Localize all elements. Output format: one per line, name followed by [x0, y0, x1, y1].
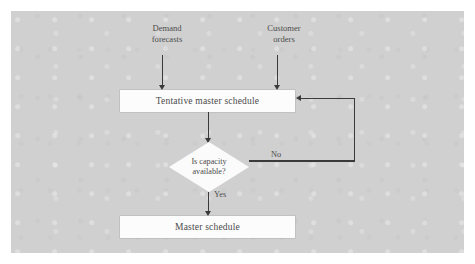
connector-orders-to-tentative: [277, 55, 278, 86]
caption-customer-orders: Customer orders: [243, 23, 325, 45]
node-master-schedule[interactable]: Master schedule: [120, 216, 295, 238]
node-decision-capacity-available[interactable]: Is capacity available?: [169, 142, 249, 192]
caption-demand-forecasts: Demand forecasts: [132, 23, 202, 45]
connector-no-vertical: [354, 98, 355, 161]
caption-demand-forecasts-line2: forecasts: [132, 34, 202, 45]
edge-label-yes: Yes: [214, 190, 226, 199]
diagram-panel: Demand forecasts Customer orders Tentati…: [11, 11, 464, 253]
node-master-schedule-label: Master schedule: [175, 222, 240, 232]
node-tentative-master-schedule[interactable]: Tentative master schedule: [120, 90, 295, 112]
connector-no-return: [301, 98, 355, 99]
edge-label-no: No: [271, 150, 281, 159]
arrowhead-no-return: [296, 95, 301, 101]
connector-no-horizontal: [249, 160, 355, 161]
caption-customer-orders-line1: Customer: [243, 23, 325, 34]
connector-tentative-to-decision: [208, 112, 209, 139]
caption-demand-forecasts-line1: Demand: [132, 23, 202, 34]
connector-yes-to-master: [208, 192, 209, 213]
connector-demand-to-tentative: [162, 55, 163, 86]
arrowhead-tentative-to-decision: [205, 138, 211, 143]
node-decision-line2: available?: [192, 167, 225, 177]
flowchart-screenshot: Demand forecasts Customer orders Tentati…: [0, 0, 475, 264]
caption-customer-orders-line2: orders: [243, 34, 325, 45]
node-decision-line1: Is capacity: [191, 157, 226, 167]
node-tentative-master-schedule-label: Tentative master schedule: [156, 96, 260, 106]
